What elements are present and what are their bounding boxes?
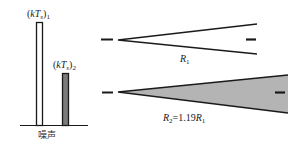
bar-2-label-sub-s: s [66, 64, 69, 72]
beam-2-wedge [118, 75, 288, 113]
bar-1-label-main: kT [30, 8, 40, 19]
bar-2-label-index: 2 [72, 64, 76, 72]
noise-axis-label: 噪声 [38, 131, 56, 140]
noise-bar-1 [37, 23, 43, 126]
bar-1-label: (kTs)1 [27, 9, 50, 21]
beam-1-label-sub: 1 [186, 58, 190, 66]
noise-bar-2 [63, 74, 69, 126]
bar-2-label-main: kT [56, 59, 66, 70]
beam-2-label: R2=1.19R1 [163, 113, 205, 125]
diagram-canvas [0, 0, 300, 149]
bar-1-label-sub-s: s [40, 13, 43, 21]
bar-2-label: (kTs)2 [53, 60, 76, 72]
beam-2-label-eq: =1.19 [173, 112, 196, 123]
beam-1-label: R1 [180, 54, 190, 66]
beam-2-label-R1-sub: 1 [202, 117, 206, 125]
beam-1-wedge [118, 24, 257, 54]
bar-1-label-index: 1 [46, 13, 50, 21]
